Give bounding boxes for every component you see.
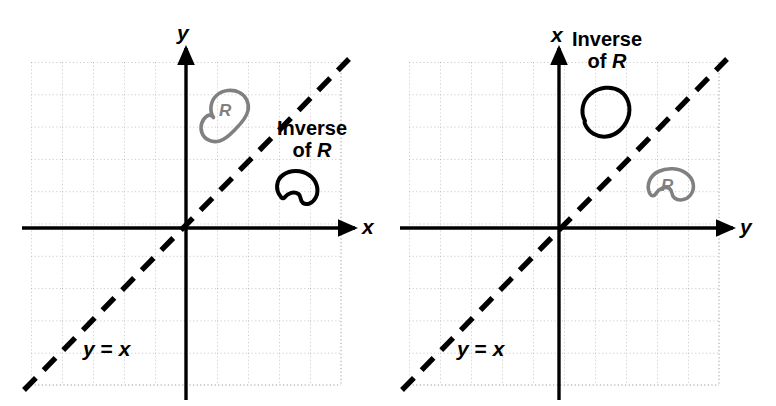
- relation-blob-letter: R: [219, 102, 231, 119]
- y-equals-x-annotation: y = x: [83, 338, 130, 359]
- equation-lhs: y: [457, 337, 469, 360]
- x-axis-label: x: [362, 216, 374, 237]
- relation-plane-panel: y x Inverse of R y = x R: [0, 0, 388, 406]
- equation-rhs: x: [119, 337, 131, 360]
- inverse-plane-panel: x y Inverse of R y = x R: [388, 0, 776, 406]
- inverse-label-variable: R: [317, 139, 331, 161]
- relation-plane-graphic: [0, 0, 388, 406]
- inverse-label-prefix: of: [293, 139, 312, 161]
- inverse-label-prefix: of: [588, 50, 607, 72]
- equation-lhs: y: [83, 337, 95, 360]
- equation-operator: =: [475, 337, 487, 360]
- equation-operator: =: [101, 337, 113, 360]
- relation-blob-letter: R: [661, 177, 673, 194]
- y-axis-label: y: [740, 216, 752, 237]
- y-equals-x-annotation: y = x: [457, 338, 504, 359]
- inverse-of-r-annotation: Inverse of R: [277, 118, 347, 161]
- y-axis-label: y: [177, 22, 189, 43]
- inverse-label-line1: Inverse: [572, 28, 642, 50]
- equation-rhs: x: [493, 337, 505, 360]
- inverse-label-variable: R: [612, 50, 626, 72]
- x-axis-label: x: [551, 24, 563, 45]
- inverse-of-r-annotation: Inverse of R: [572, 29, 642, 72]
- inverse-label-line1: Inverse: [277, 117, 347, 139]
- figure-canvas: y x Inverse of R y = x R: [0, 0, 776, 406]
